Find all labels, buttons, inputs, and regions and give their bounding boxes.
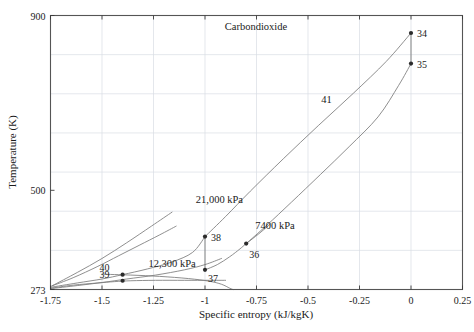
state-point-marker-37 bbox=[203, 268, 207, 272]
curves-layer bbox=[51, 33, 412, 290]
annotation-pressure-7400: 7400 kPa bbox=[255, 220, 295, 231]
curve-isobar-21000-lower-branch bbox=[51, 226, 177, 286]
state-point-label-34: 34 bbox=[417, 28, 427, 39]
y-tick-label: 500 bbox=[31, 185, 46, 196]
annotation-pressure-21000: 21,000 kPa bbox=[196, 194, 244, 205]
x-tick-label: -1.25 bbox=[143, 295, 164, 306]
state-point-marker-36 bbox=[244, 242, 248, 246]
chart-title: Carbondioxide bbox=[225, 21, 288, 32]
state-point-marker-38 bbox=[203, 235, 207, 239]
state-point-label-37: 37 bbox=[208, 273, 218, 284]
state-point-marker-39 bbox=[121, 279, 125, 283]
x-tick-label: 0 bbox=[409, 295, 414, 306]
x-tick-label: -0.5 bbox=[300, 295, 316, 306]
x-tick-label: 0.25 bbox=[454, 295, 472, 306]
ts-diagram-carbondioxide: -1.75-1.5-1.25-1-0.75-0.5-0.2500.2527350… bbox=[0, 0, 474, 332]
annotation-pressure-12300: 12,300 kPa bbox=[148, 258, 196, 269]
curve-isobar-7400-upper bbox=[246, 64, 411, 244]
annotation-process-41: 41 bbox=[321, 94, 332, 105]
state-point-label-40: 40 bbox=[100, 262, 110, 273]
x-axis-label: Specific entropy (kJ/kgK) bbox=[199, 308, 314, 321]
state-point-markers bbox=[121, 31, 414, 283]
chart-text-layer: -1.75-1.5-1.25-1-0.75-0.5-0.2500.2527350… bbox=[6, 11, 471, 322]
y-tick-label: 900 bbox=[31, 11, 46, 22]
chart-canvas: -1.75-1.5-1.25-1-0.75-0.5-0.2500.2527350… bbox=[0, 0, 474, 332]
state-point-label-38: 38 bbox=[211, 232, 221, 243]
state-point-label-36: 36 bbox=[249, 249, 259, 260]
x-tick-label: -0.25 bbox=[349, 295, 370, 306]
state-point-label-35: 35 bbox=[417, 59, 427, 70]
state-point-marker-40 bbox=[121, 273, 125, 277]
x-tick-label: -0.75 bbox=[246, 295, 267, 306]
y-tick-label: 273 bbox=[31, 285, 46, 296]
state-point-marker-35 bbox=[409, 61, 413, 65]
x-tick-label: -1.75 bbox=[40, 295, 61, 306]
curve-isobar-low-liquid bbox=[51, 280, 226, 288]
x-tick-label: -1 bbox=[201, 295, 209, 306]
state-point-marker-34 bbox=[409, 31, 413, 35]
y-axis-label: Temperature (K) bbox=[6, 115, 19, 189]
x-tick-label: -1.5 bbox=[94, 295, 110, 306]
